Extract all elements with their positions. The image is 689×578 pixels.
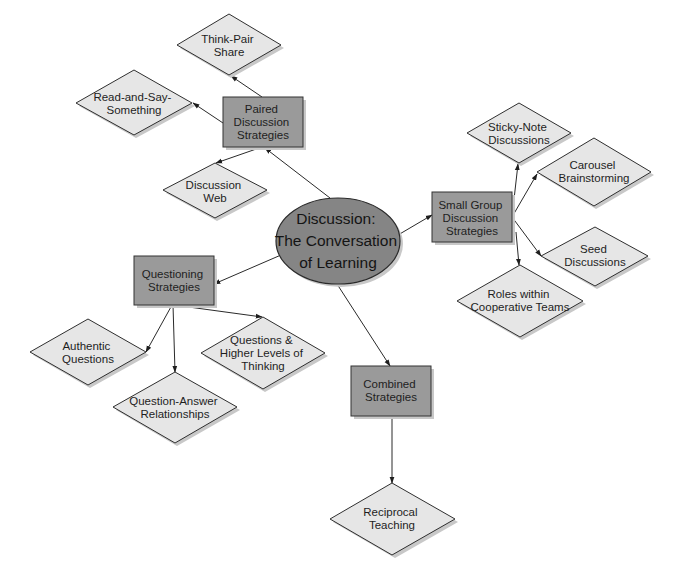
leaf-reciprocal-teaching: Reciprocal Teaching bbox=[330, 483, 458, 558]
edge-q-qar bbox=[173, 305, 175, 372]
category-combined-label: Combined Strategies bbox=[363, 378, 419, 403]
category-questioning: Questioning Strategies bbox=[134, 256, 217, 308]
category-paired: Paired Discussion Strategies bbox=[223, 97, 306, 150]
edge-center-smallgroup bbox=[398, 215, 432, 235]
leaf-discussion-web: Discussion Web bbox=[163, 163, 270, 221]
category-questioning-label: Questioning Strategies bbox=[142, 268, 207, 293]
concept-map: Discussion: The Conversation of Learning… bbox=[0, 0, 689, 578]
edge-paired-thinkpair bbox=[231, 76, 262, 97]
leaf-authentic-questions: Authentic Questions bbox=[30, 319, 149, 388]
leaf-read-and-say-something: Read-and-Say- Something bbox=[76, 70, 195, 138]
edge-q-authentic bbox=[146, 305, 172, 352]
leaf-higher-levels-thinking: Questions & Higher Levels of Thinking bbox=[201, 317, 328, 392]
edge-center-combined bbox=[337, 284, 390, 366]
category-combined: Combined Strategies bbox=[351, 366, 434, 419]
leaf-question-answer-relationships: Question-Answer Relationships bbox=[113, 372, 240, 446]
svg-text:Question-Answer Relation: Question-Answer Relationships bbox=[129, 395, 220, 420]
category-small-group-label: Small Group Discussion Strategies bbox=[438, 199, 505, 237]
leaf-seed-discussions: Seed Discussions bbox=[541, 227, 651, 289]
leaf-sticky-note: Sticky-Note Discussions bbox=[467, 103, 574, 166]
svg-text:Sticky-Note Discussions: Sticky-Note Discussions bbox=[488, 121, 550, 146]
svg-text:Reciprocal Teaching: Reciprocal Teaching bbox=[363, 506, 421, 531]
edge-center-paired bbox=[265, 148, 330, 198]
edge-paired-readandsay bbox=[193, 103, 223, 123]
leaf-roles-within-teams: Roles within Cooperative Teams bbox=[457, 265, 586, 340]
center-node: Discussion: The Conversation of Learning bbox=[275, 198, 403, 287]
edge-center-questioning bbox=[214, 255, 281, 284]
svg-text:Authentic Questions: Authentic Questions bbox=[62, 340, 114, 365]
leaf-think-pair-share: Think-Pair Share bbox=[177, 14, 284, 78]
category-small-group: Small Group Discussion Strategies bbox=[432, 192, 515, 245]
leaf-carousel-brainstorming: Carousel Brainstorming bbox=[537, 138, 654, 209]
edge-sg-roles bbox=[516, 232, 519, 265]
